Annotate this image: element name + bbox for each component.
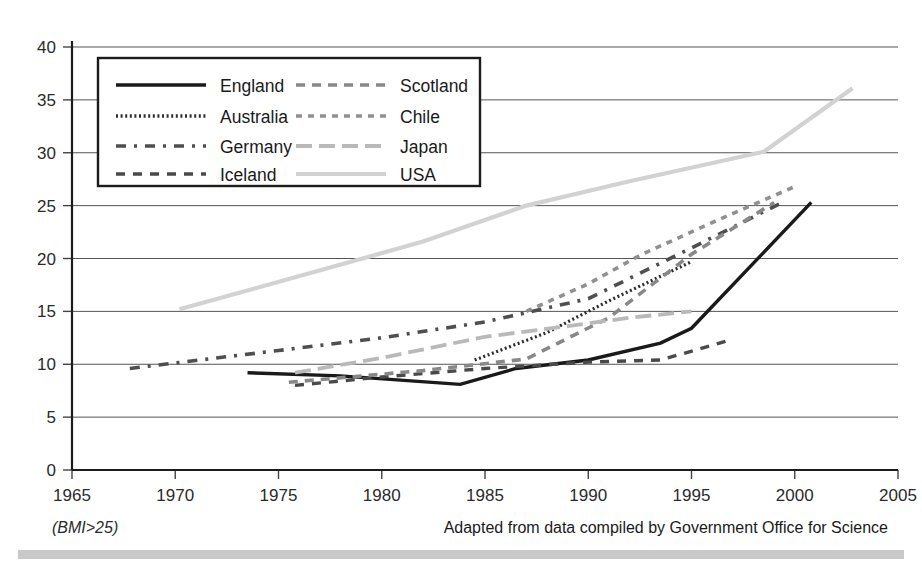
- bmi-note: (BMI>25): [52, 519, 118, 536]
- x-axis-ticks: 196519701975198019851990199520002005: [53, 470, 917, 505]
- y-tick-label: 30: [37, 144, 56, 163]
- chart-page: 4035302520151050 19651970197519801985199…: [0, 0, 922, 569]
- bmi-line-chart: 4035302520151050 19651970197519801985199…: [0, 0, 922, 569]
- legend-label-australia: Australia: [220, 107, 288, 127]
- chart-legend: EnglandAustraliaGermanyIcelandScotlandCh…: [98, 58, 480, 186]
- y-tick-label: 5: [47, 408, 56, 427]
- series-line-australia: [475, 262, 692, 360]
- y-tick-label: 15: [37, 302, 56, 321]
- source-attribution: Adapted from data compiled by Government…: [444, 519, 888, 536]
- y-tick-label: 35: [37, 91, 56, 110]
- y-tick-label: 10: [37, 355, 56, 374]
- legend-label-england: England: [220, 76, 284, 96]
- x-tick-label: 1970: [156, 486, 194, 505]
- legend-label-chile: Chile: [400, 107, 440, 127]
- y-tick-label: 25: [37, 197, 56, 216]
- legend-label-scotland: Scotland: [400, 76, 468, 96]
- y-tick-label: 0: [47, 461, 56, 480]
- legend-label-japan: Japan: [400, 137, 448, 157]
- y-axis-ticks: 4035302520151050: [37, 38, 72, 480]
- x-tick-label: 1975: [260, 486, 298, 505]
- legend-label-germany: Germany: [220, 137, 292, 157]
- x-tick-label: 1995: [673, 486, 711, 505]
- x-tick-label: 1965: [53, 486, 91, 505]
- footer-bar: [18, 550, 904, 559]
- x-tick-label: 1990: [569, 486, 607, 505]
- y-tick-label: 20: [37, 250, 56, 269]
- x-tick-label: 2005: [879, 486, 917, 505]
- x-tick-label: 1980: [363, 486, 401, 505]
- legend-label-iceland: Iceland: [220, 165, 276, 185]
- x-tick-label: 1985: [466, 486, 504, 505]
- x-tick-label: 2000: [776, 486, 814, 505]
- legend-label-usa: USA: [400, 165, 436, 185]
- y-tick-label: 40: [37, 38, 56, 57]
